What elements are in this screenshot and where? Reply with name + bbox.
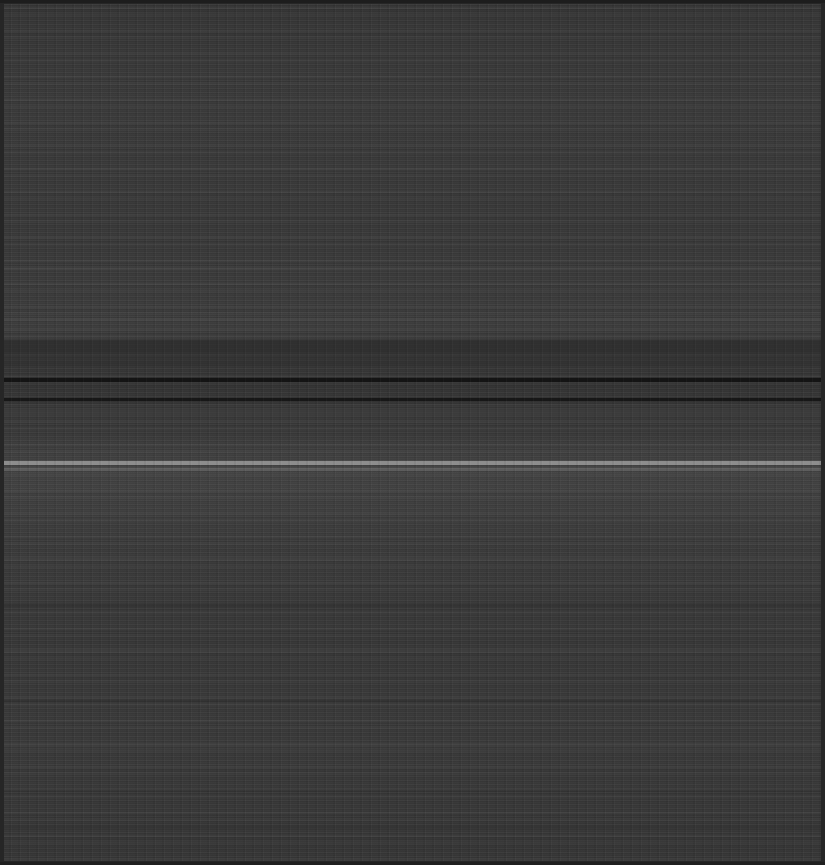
top-edge-rule [0,0,825,3]
corrupted-screenshot-canvas [0,0,825,865]
background-field [0,0,825,865]
